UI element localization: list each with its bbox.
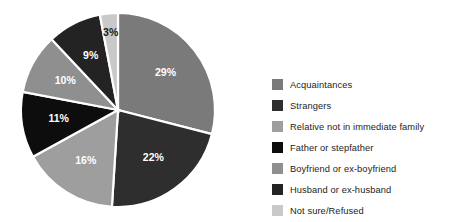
- legend-item-label: Not sure/Refused: [290, 206, 364, 216]
- legend-item: Relative not in immediate family: [272, 116, 457, 137]
- legend-swatch-icon: [272, 100, 283, 111]
- pie-slice-label: 10%: [55, 74, 77, 86]
- legend-swatch-icon: [272, 184, 283, 195]
- legend-swatch-icon: [272, 142, 283, 153]
- legend-item: Husband or ex-husband: [272, 179, 457, 200]
- pie-slice-label: 29%: [155, 66, 177, 78]
- legend-item-label: Relative not in immediate family: [290, 122, 424, 132]
- pie-slice-label: 22%: [143, 151, 165, 163]
- legend-item: Boyfriend or ex-boyfriend: [272, 158, 457, 179]
- pie-slice-label: 16%: [75, 154, 97, 166]
- legend-item: Acquaintances: [272, 74, 457, 95]
- pie-slice-label: 3%: [103, 26, 119, 38]
- legend-swatch-icon: [272, 121, 283, 132]
- chart-legend: AcquaintancesStrangersRelative not in im…: [272, 74, 457, 221]
- pie-slice-label: 11%: [48, 112, 69, 124]
- legend-item: Not sure/Refused: [272, 200, 457, 221]
- legend-swatch-icon: [272, 163, 283, 174]
- legend-item-label: Boyfriend or ex-boyfriend: [290, 164, 396, 174]
- pie-chart-area: 29%22%16%11%10%9%3%: [0, 0, 250, 222]
- pie-chart-svg: 29%22%16%11%10%9%3%: [0, 0, 250, 222]
- legend-item-label: Strangers: [290, 101, 331, 111]
- legend-item-label: Husband or ex-husband: [290, 185, 391, 195]
- legend-item: Father or stepfather: [272, 137, 457, 158]
- legend-swatch-icon: [272, 205, 283, 216]
- pie-chart-figure: 29%22%16%11%10%9%3% AcquaintancesStrange…: [0, 0, 457, 222]
- legend-item-label: Father or stepfather: [290, 143, 374, 153]
- legend-item-label: Acquaintances: [290, 80, 352, 90]
- pie-slices-group: [21, 13, 215, 207]
- legend-swatch-icon: [272, 79, 283, 90]
- pie-slice-label: 9%: [83, 49, 99, 61]
- legend-item: Strangers: [272, 95, 457, 116]
